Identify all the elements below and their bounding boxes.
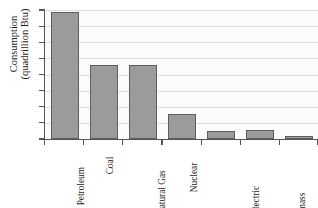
x-tick-mark	[83, 140, 84, 145]
x-tick-label-line: Natural Gas	[157, 170, 167, 208]
bar	[129, 65, 157, 139]
x-tick-label-line: Coal	[104, 157, 114, 175]
x-tick-label-line: Hydroelectric	[251, 186, 261, 208]
x-axis-line	[44, 139, 318, 140]
x-tick-label: Nuclear	[189, 163, 203, 192]
x-tick-label-line: Nuclear	[189, 163, 199, 192]
x-tick-label: Natural Gas	[157, 170, 171, 208]
x-tick-label-line: Petroleum	[76, 167, 86, 205]
x-tick-mark	[201, 140, 202, 145]
x-tick-mark	[122, 140, 123, 145]
gridline	[45, 58, 318, 59]
x-tick-mark	[279, 140, 280, 145]
bar	[90, 65, 118, 139]
x-tick-label: Petroleum	[76, 167, 90, 205]
plot-area	[44, 10, 318, 139]
gridline	[45, 42, 318, 43]
x-tick-label: Coal	[104, 157, 118, 175]
gridline	[45, 91, 318, 92]
x-tick-mark	[240, 140, 241, 145]
x-tick-mark	[161, 140, 162, 145]
y-axis-title-line-1: Consumption	[8, 16, 19, 73]
x-tick-label: Biomass(such as wood)	[297, 193, 311, 208]
y-axis-title: Consumption (quadrillion Btu)	[4, 0, 34, 109]
bar	[168, 114, 196, 139]
gridline	[45, 10, 318, 11]
x-tick-mark	[317, 140, 318, 145]
x-tick-mark	[44, 140, 45, 145]
x-tick-label: HydroelectricPower	[251, 186, 265, 208]
gridline	[45, 26, 318, 27]
bar	[51, 12, 79, 139]
gridline	[45, 107, 318, 108]
gridline	[45, 75, 318, 76]
bar-chart: Consumption (quadrillion Btu) 0510152025…	[0, 0, 318, 208]
x-tick-label-line: Biomass	[297, 193, 307, 208]
y-axis-title-line-2: (quadrillion Btu)	[19, 9, 30, 80]
